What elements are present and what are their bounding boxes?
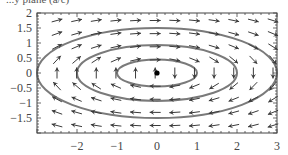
- equilibrium-point: [154, 70, 159, 75]
- y-tick-label: 0.5: [17, 51, 32, 65]
- vector-field-arrows: [52, 18, 279, 129]
- y-tick-label: −0.5: [10, 81, 32, 95]
- x-tick-label: 3: [274, 139, 280, 153]
- equilibrium-dot: [154, 70, 159, 75]
- chart-title-cropped: ...y plane (a/c): [6, 0, 69, 5]
- y-tick-label: −1: [19, 96, 32, 110]
- phase-plane-plot: −2−10123 21.510.50−0.5−1−1.5: [0, 0, 288, 155]
- y-tick-label: −1.5: [10, 111, 32, 125]
- y-tick-label: 1.5: [17, 21, 32, 35]
- x-tick-label: 1: [194, 139, 200, 153]
- x-tick-label: −2: [71, 139, 84, 153]
- y-tick-label: 2: [26, 6, 32, 20]
- y-tick-label: 1: [26, 36, 32, 50]
- x-tick-label: 2: [234, 139, 240, 153]
- x-tick-label: 0: [154, 139, 160, 153]
- phase-portrait-figure: ...y plane (a/c) −2−10123 21.510.50−0.5−…: [0, 0, 288, 155]
- y-axis-tick-labels: 21.510.50−0.5−1−1.5: [10, 6, 32, 125]
- x-tick-label: −1: [111, 139, 124, 153]
- y-tick-label: 0: [26, 66, 32, 80]
- x-axis-tick-labels: −2−10123: [71, 139, 280, 153]
